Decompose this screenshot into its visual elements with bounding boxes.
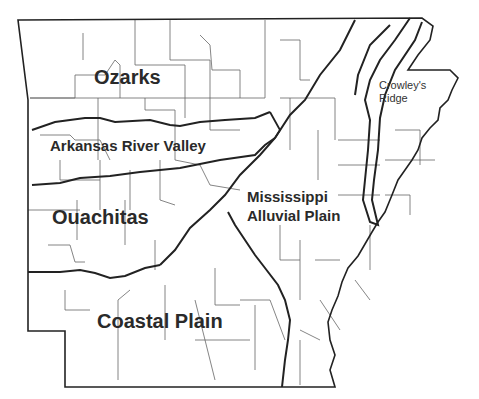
- region-label-ozarks: Ozarks: [94, 66, 161, 89]
- region-label-crowleys-ridge-line2: Ridge: [379, 92, 408, 104]
- county-lines: [28, 20, 435, 385]
- region-label-mississippi-alluvial-plain-line2: Alluvial Plain: [247, 207, 340, 224]
- region-label-ouachitas: Ouachitas: [52, 206, 149, 229]
- region-label-coastal-plain: Coastal Plain: [97, 310, 223, 333]
- region-boundaries: [28, 18, 422, 387]
- state-border: [18, 18, 458, 387]
- region-label-crowleys-ridge-line1: Crowley's: [379, 79, 426, 91]
- arkansas-map: [0, 0, 479, 399]
- region-label-mississippi-alluvial-plain-line1: Mississippi: [247, 188, 328, 205]
- region-label-arkansas-river-valley: Arkansas River Valley: [50, 137, 206, 154]
